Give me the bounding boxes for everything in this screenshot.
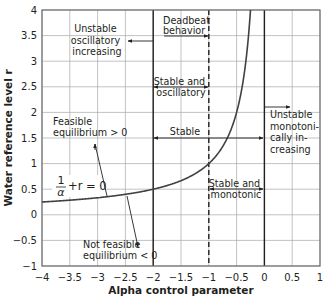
y-tick-label: −0.5 [13, 235, 37, 246]
y-axis-ticks: −1−0.500.511.522.533.54 [13, 5, 37, 272]
stability-chart: −4−3.5−3−2.5−2−1.5−1−0.500.51 −1−0.500.5… [0, 0, 328, 301]
y-tick-label: 4 [31, 5, 37, 16]
annotation-arrows [95, 36, 290, 247]
x-axis-label: Alpha control parameter [108, 284, 254, 296]
x-tick-label: −2.5 [113, 272, 137, 283]
y-tick-label: 2.5 [21, 81, 37, 92]
annotation-unstable-oscillatory: Unstable oscillatory increasing [71, 23, 123, 57]
x-tick-label: −2 [146, 272, 161, 283]
y-tick-label: 1.5 [21, 133, 37, 144]
y-tick-label: −1 [22, 261, 37, 272]
x-tick-label: −4 [35, 272, 50, 283]
annotation-stable-oscillatory: Stable and oscillatory [154, 76, 209, 98]
y-tick-label: 0.5 [21, 184, 37, 195]
fraction-denominator: α [57, 186, 65, 199]
y-tick-label: 2 [31, 107, 37, 118]
x-tick-label: −1.5 [169, 272, 193, 283]
y-tick-label: 3 [31, 56, 37, 67]
y-axis-label: Water reference level r [2, 69, 14, 207]
annotation-stable-monotonic: Stable and monotonic [209, 178, 264, 200]
annotation-deadbeat: Deadbeat behavior [163, 15, 213, 36]
x-tick-label: 1 [317, 272, 323, 283]
annotation-feasible: Feasible equilibrium > 0 [53, 116, 127, 138]
equation-rest: +r = 0 [68, 179, 107, 193]
annotation-stable: Stable [170, 126, 200, 137]
y-tick-label: 0 [31, 209, 37, 220]
x-tick-label: −0.5 [224, 272, 248, 283]
y-tick-label: 3.5 [21, 30, 37, 41]
x-tick-label: −3 [90, 272, 105, 283]
annotation-unstable-monotonic: Unstable monotoni- cally in- creasing [270, 109, 322, 155]
x-tick-label: −3.5 [58, 272, 82, 283]
x-tick-label: −1 [201, 272, 216, 283]
annotation-not-feasible: Not feasible equilibrium < 0 [83, 239, 157, 261]
x-axis-ticks: −4−3.5−3−2.5−2−1.5−1−0.500.51 [35, 272, 324, 283]
curve-equation-label: 1 α +r = 0 [52, 174, 107, 199]
y-tick-label: 1 [31, 158, 37, 169]
x-tick-label: 0 [261, 272, 267, 283]
x-tick-label: 0.5 [284, 272, 300, 283]
